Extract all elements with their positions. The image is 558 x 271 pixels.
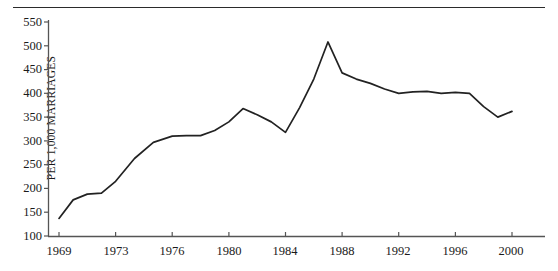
data-line-series-0 bbox=[59, 42, 512, 218]
chart-canvas bbox=[0, 0, 558, 271]
line-chart: PER 1,000 MARRIAGES 550 500 450 400 350 … bbox=[0, 0, 558, 271]
figure: PER 1,000 MARRIAGES 550 500 450 400 350 … bbox=[0, 0, 558, 271]
